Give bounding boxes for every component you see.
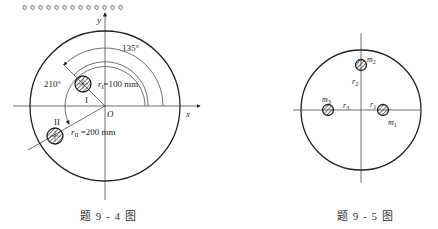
x-axis-label: x xyxy=(186,110,190,119)
r1-annotation: rI=100 mm xyxy=(98,80,138,90)
angle-135-label: 135° xyxy=(122,44,139,53)
diagrams-canvas xyxy=(0,0,438,229)
m2-label: m2 xyxy=(367,56,376,65)
m3-label: m3 xyxy=(322,96,331,105)
mass-m2-icon xyxy=(356,60,367,71)
origin-label: O xyxy=(107,110,114,119)
r2-annotation: rII =200 mm xyxy=(71,128,116,138)
r1-label: r1 xyxy=(370,101,376,110)
y-axis-label: y xyxy=(97,16,101,25)
r3-label: r3 xyxy=(343,102,349,111)
caption-9-4: 题 9 - 4 图 xyxy=(80,207,137,223)
m1-label: m1 xyxy=(388,119,397,128)
mass-m1-icon xyxy=(378,105,389,116)
angle-210-label: 210° xyxy=(44,80,61,89)
mass-m3-icon xyxy=(323,105,334,116)
figure-9-4 xyxy=(13,13,200,200)
mass-2-label: II xyxy=(54,118,60,127)
figure-9-5 xyxy=(293,33,421,183)
caption-9-5: 题 9 - 5 图 xyxy=(337,207,394,223)
mass-1-label: I xyxy=(85,96,88,105)
r2-label: r2 xyxy=(352,78,358,87)
